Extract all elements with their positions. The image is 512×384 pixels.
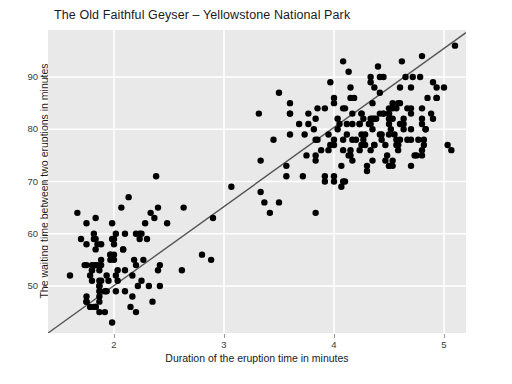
scatter-point <box>129 293 135 299</box>
y-tick-label: 60 <box>16 228 38 239</box>
y-tick-mark <box>43 77 47 78</box>
scatter-point <box>377 74 383 80</box>
scatter-point <box>118 204 124 210</box>
scatter-point <box>404 137 410 143</box>
x-tick-label: 5 <box>436 339 452 350</box>
scatter-point <box>312 137 318 143</box>
scatter-point <box>135 283 141 289</box>
scatter-point <box>336 121 342 127</box>
plot-area <box>48 30 466 333</box>
scatter-point <box>144 236 150 242</box>
scatter-point <box>303 152 309 158</box>
scatter-point <box>380 110 386 116</box>
scatter-point <box>419 147 425 153</box>
scatter-point <box>433 84 439 90</box>
scatter-point <box>157 283 163 289</box>
scatter-point <box>312 210 318 216</box>
chart-figure: The Old Faithful Geyser – Yellowstone Na… <box>0 0 512 384</box>
scatter-point <box>114 267 120 273</box>
scatter-point <box>111 241 117 247</box>
scatter-point <box>305 110 311 116</box>
scatter-point <box>371 84 377 90</box>
scatter-point <box>301 131 307 137</box>
scatter-point <box>283 173 289 179</box>
scatter-point <box>92 215 98 221</box>
scatter-point <box>349 110 355 116</box>
scatter-point <box>111 251 117 257</box>
scatter-point <box>340 137 346 143</box>
scatter-point <box>399 58 405 64</box>
scatter-point <box>67 272 73 278</box>
scatter-point <box>422 126 428 132</box>
scatter-point <box>103 272 109 278</box>
scatter-point <box>322 173 328 179</box>
scatter-point <box>305 121 311 127</box>
scatter-point <box>400 126 406 132</box>
scatter-point <box>331 137 337 143</box>
scatter-point <box>109 220 115 226</box>
scatter-point <box>109 319 115 325</box>
scatter-point <box>180 204 186 210</box>
scatter-point <box>296 121 302 127</box>
scatter-point <box>96 283 102 289</box>
y-tick-label: 80 <box>16 123 38 134</box>
scatter-point <box>127 304 133 310</box>
scatter-point <box>433 95 439 101</box>
scatter-point <box>122 288 128 294</box>
scatter-point <box>74 210 80 216</box>
scatter-point <box>413 152 419 158</box>
scatter-point <box>377 89 383 95</box>
scatter-point <box>441 84 447 90</box>
chart-title: The Old Faithful Geyser – Yellowstone Na… <box>54 8 350 22</box>
scatter-point <box>113 288 119 294</box>
scatter-point <box>140 257 146 263</box>
scatter-point <box>261 199 267 205</box>
scatter-point <box>83 293 89 299</box>
scatter-point <box>322 105 328 111</box>
scatter-point <box>362 142 368 148</box>
scatter-point <box>270 137 276 143</box>
scatter-plot-svg <box>48 30 466 333</box>
scatter-point <box>386 163 392 169</box>
scatter-point <box>331 100 337 106</box>
x-tick-label: 2 <box>106 339 122 350</box>
scatter-point <box>415 137 421 143</box>
scatter-point <box>102 309 108 315</box>
scatter-point <box>367 79 373 85</box>
scatter-point <box>94 241 100 247</box>
scatter-point <box>408 105 414 111</box>
scatter-point <box>208 257 214 263</box>
x-tick-mark <box>224 334 225 338</box>
scatter-point <box>408 126 414 132</box>
scatter-point <box>300 173 306 179</box>
scatter-point <box>267 210 273 216</box>
scatter-point <box>397 121 403 127</box>
scatter-point <box>444 142 450 148</box>
scatter-point <box>382 142 388 148</box>
scatter-point <box>378 137 384 143</box>
scatter-point <box>340 178 346 184</box>
scatter-point <box>391 131 397 137</box>
scatter-point <box>389 105 395 111</box>
scatter-point <box>386 110 392 116</box>
scatter-point <box>356 121 362 127</box>
x-tick-label: 4 <box>326 339 342 350</box>
scatter-point <box>133 262 139 268</box>
scatter-point <box>344 131 350 137</box>
scatter-point <box>138 278 144 284</box>
scatter-point <box>356 147 362 153</box>
scatter-point <box>133 309 139 315</box>
scatter-point <box>312 152 318 158</box>
y-tick-mark <box>43 182 47 183</box>
x-tick-label: 3 <box>216 339 232 350</box>
scatter-point <box>256 110 262 116</box>
scatter-point <box>375 63 381 69</box>
scatter-point <box>276 199 282 205</box>
scatter-point <box>327 142 333 148</box>
scatter-point <box>122 231 128 237</box>
scatter-point <box>389 116 395 122</box>
scatter-point <box>397 84 403 90</box>
y-tick-label: 50 <box>16 280 38 291</box>
scatter-point <box>338 163 344 169</box>
scatter-point <box>122 267 128 273</box>
